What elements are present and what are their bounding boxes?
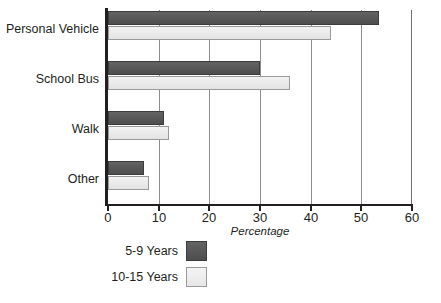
bar-walk-5-9-years bbox=[108, 111, 164, 125]
category-label-school-bus: School Bus bbox=[2, 72, 105, 86]
x-tick-label-50: 50 bbox=[341, 210, 381, 225]
plot-area bbox=[108, 10, 412, 204]
gridline-50 bbox=[361, 10, 362, 204]
bar-personal-vehicle-10-15-years bbox=[108, 26, 331, 40]
legend-item-5-9-years: 5-9 Years bbox=[96, 240, 326, 266]
category-label-other: Other bbox=[2, 172, 105, 186]
x-axis-title: Percentage bbox=[108, 225, 412, 237]
bar-other-5-9-years bbox=[108, 161, 144, 175]
x-tick-label-60: 60 bbox=[392, 210, 432, 225]
x-tick-label-20: 20 bbox=[189, 210, 229, 225]
x-tick-label-0: 0 bbox=[88, 210, 128, 225]
bar-chart-figure: Personal Vehicle School Bus Walk Other 0 bbox=[0, 0, 441, 303]
x-tick-label-40: 40 bbox=[291, 210, 331, 225]
legend-label-10-15-years: 10-15 Years bbox=[96, 270, 178, 284]
bar-personal-vehicle-5-9-years bbox=[108, 11, 379, 25]
category-label-walk: Walk bbox=[2, 122, 105, 136]
gridline-60 bbox=[411, 10, 412, 204]
x-tick-label-10: 10 bbox=[139, 210, 179, 225]
category-axis-labels: Personal Vehicle School Bus Walk Other bbox=[0, 0, 105, 204]
x-tick-label-30: 30 bbox=[240, 210, 280, 225]
legend-swatch-10-15-years bbox=[186, 267, 207, 287]
bar-school-bus-10-15-years bbox=[108, 76, 290, 90]
bar-school-bus-5-9-years bbox=[108, 61, 260, 75]
category-label-personal-vehicle: Personal Vehicle bbox=[2, 22, 105, 36]
y-axis-line bbox=[105, 8, 108, 206]
chart-legend: 5-9 Years 10-15 Years bbox=[96, 240, 326, 292]
legend-item-10-15-years: 10-15 Years bbox=[96, 266, 326, 292]
legend-swatch-5-9-years bbox=[186, 241, 207, 261]
bar-walk-10-15-years bbox=[108, 126, 169, 140]
bar-other-10-15-years bbox=[108, 176, 149, 190]
legend-label-5-9-years: 5-9 Years bbox=[96, 244, 178, 258]
